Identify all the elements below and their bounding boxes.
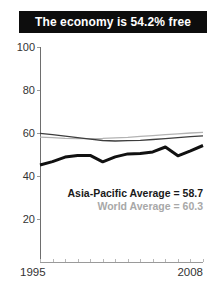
- legend-world: World Average = 60.3: [67, 200, 203, 213]
- y-tick-label-60: 60: [0, 127, 35, 139]
- chart-title: The economy is 54.2% free: [35, 15, 191, 29]
- economic-freedom-trend-chart: The economy is 54.2% free 20406080100 19…: [0, 0, 217, 301]
- y-tick-label-20: 20: [0, 213, 35, 225]
- y-tick-label-100: 100: [0, 41, 35, 53]
- x-axis-label-start: 1995: [20, 266, 46, 279]
- plot-lines: [40, 47, 203, 262]
- legend-asia-pacific: Asia-Pacific Average = 58.7: [67, 187, 203, 200]
- x-axis: [40, 262, 203, 263]
- y-tick-label-80: 80: [0, 84, 35, 96]
- title-banner: The economy is 54.2% free: [19, 11, 207, 33]
- y-tick-label-40: 40: [0, 170, 35, 182]
- x-axis-label-end: 2008: [177, 266, 203, 279]
- legend: Asia-Pacific Average = 58.7 World Averag…: [67, 187, 203, 212]
- series-country-score: [40, 146, 203, 166]
- x-tick-mark-2008: [203, 259, 204, 262]
